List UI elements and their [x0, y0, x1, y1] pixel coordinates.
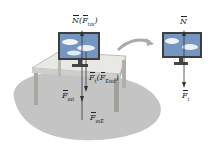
label-force-mE: FmE: [90, 114, 104, 124]
label-normal-force: N(Ftm): [72, 17, 98, 27]
label-earth-force: Ft(FEmt): [89, 74, 119, 84]
label-right-normal: N: [180, 18, 187, 26]
label-right-gravity: Ft: [182, 92, 190, 102]
label-force-mt: Fmt: [62, 92, 74, 102]
monitor-right: [162, 32, 202, 65]
transition-arrow: [118, 40, 150, 50]
